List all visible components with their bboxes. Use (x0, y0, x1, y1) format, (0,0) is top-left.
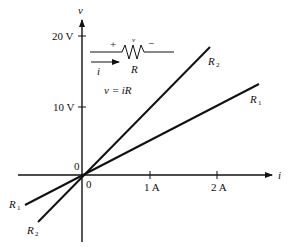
ohms-law-equation: v = iR (104, 84, 132, 96)
tick-label-1a: 1 A (144, 181, 160, 193)
svg-text:2: 2 (35, 230, 39, 238)
plus-sign: + (110, 38, 116, 50)
tick-label-10v: 10 V (53, 101, 75, 113)
svg-text:R: R (207, 55, 215, 67)
label-r1-upper: R 1 (249, 93, 262, 107)
i-axis-label: i (278, 169, 281, 181)
label-r2-upper: R 2 (207, 55, 220, 69)
resistor-circuit: + − v i R (90, 36, 174, 77)
current-label: i (97, 65, 100, 77)
minus-sign: − (148, 37, 154, 49)
voltage-label: v (132, 36, 136, 44)
tick-label-2a: 2 A (211, 181, 227, 193)
label-r2-lower: R 2 (26, 224, 39, 238)
origin-label-lower: 0 (86, 178, 92, 190)
v-axis-label: v (78, 4, 83, 16)
tick-label-20v: 20 V (52, 30, 74, 42)
svg-text:R: R (249, 93, 257, 105)
label-r1-lower: R 1 (8, 198, 21, 212)
line-r2 (38, 47, 210, 222)
svg-text:R: R (26, 224, 34, 236)
axes (18, 20, 272, 242)
ohms-law-diagram: v i 20 V 10 V 1 A 2 A 0 0 R 2 R 1 R 1 R … (0, 0, 288, 247)
svg-text:1: 1 (17, 204, 21, 212)
resistor-zigzag (122, 45, 144, 59)
svg-text:2: 2 (216, 61, 220, 69)
resistor-label: R (130, 63, 138, 75)
svg-text:R: R (8, 198, 16, 210)
origin-label-upper: 0 (74, 160, 80, 172)
svg-text:1: 1 (258, 99, 262, 107)
